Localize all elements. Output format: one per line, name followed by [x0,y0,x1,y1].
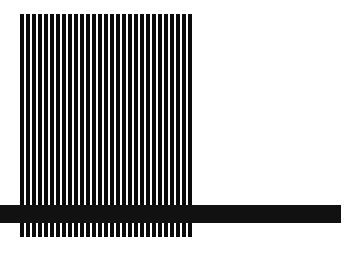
stripe-2 [26,14,30,237]
stripe-20 [134,14,138,237]
horizontal-cross-bar [0,205,341,223]
stripe-14 [98,14,102,237]
stripe-24 [158,14,162,237]
stripe-17 [116,14,120,237]
stripe-7 [56,14,60,237]
stripe-28 [182,14,186,237]
stripe-13 [92,14,96,237]
stripe-29 [188,14,192,237]
vertical-stripe-field [20,14,195,237]
stripe-27 [176,14,180,237]
stripe-1 [20,14,24,237]
stripe-21 [140,14,144,237]
stripe-18 [122,14,126,237]
stripe-19 [128,14,132,237]
stripe-16 [110,14,114,237]
stripe-25 [164,14,168,237]
stripe-3 [32,14,36,237]
stripe-8 [62,14,66,237]
stripe-15 [104,14,108,237]
stripe-10 [74,14,78,237]
stripe-23 [152,14,156,237]
stripe-5 [44,14,48,237]
stripe-9 [68,14,72,237]
stripe-11 [80,14,84,237]
artboard [0,0,350,254]
stripe-6 [50,14,54,237]
stripe-12 [86,14,90,237]
stripe-22 [146,14,150,237]
stripe-26 [170,14,174,237]
stripe-4 [38,14,42,237]
